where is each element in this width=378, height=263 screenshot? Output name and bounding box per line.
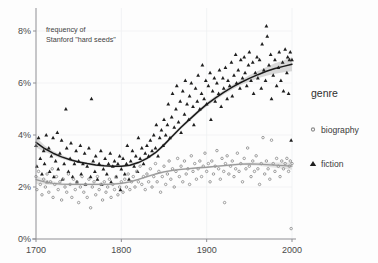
chart-page: 0%2%4%6%8%1700180019002000frequency ofSt… <box>0 0 378 263</box>
legend-title: genre <box>311 87 338 99</box>
legend: genrebiographyfiction <box>0 0 378 263</box>
legend-item-label: biography <box>321 125 359 135</box>
legend-svg: genrebiographyfiction <box>0 0 378 263</box>
legend-item-fiction[interactable]: fiction <box>310 159 344 169</box>
legend-item-biography[interactable]: biography <box>311 125 359 135</box>
circle-marker-icon <box>311 128 314 131</box>
legend-item-label: fiction <box>321 159 344 169</box>
triangle-marker-icon <box>310 161 316 166</box>
